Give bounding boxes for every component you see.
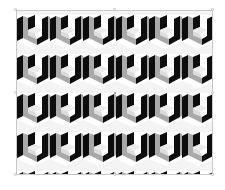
resize-handle-bottom-left[interactable] xyxy=(14,173,17,176)
editor-canvas[interactable] xyxy=(0,0,225,190)
resize-handle-bottom-right[interactable] xyxy=(211,173,214,176)
resize-handle-bottom-center[interactable] xyxy=(113,173,116,176)
resize-handle-middle-right[interactable] xyxy=(211,91,214,94)
center-point-marker[interactable] xyxy=(114,92,116,94)
resize-handle-top-left[interactable] xyxy=(14,8,17,11)
resize-handle-top-right[interactable] xyxy=(211,8,214,11)
resize-handle-middle-left[interactable] xyxy=(14,91,17,94)
resize-handle-top-center[interactable] xyxy=(113,8,116,11)
